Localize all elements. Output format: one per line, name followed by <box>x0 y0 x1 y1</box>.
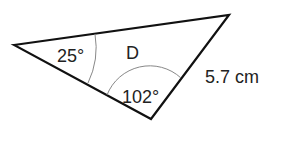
triangle-diagram: 25° D 102° 5.7 cm <box>0 0 296 148</box>
angle-arc-25 <box>88 34 96 83</box>
angle-label-25: 25° <box>57 46 84 66</box>
angle-label-102: 102° <box>122 87 159 107</box>
side-length-label: 5.7 cm <box>205 67 259 87</box>
shape-label-d: D <box>126 43 139 63</box>
